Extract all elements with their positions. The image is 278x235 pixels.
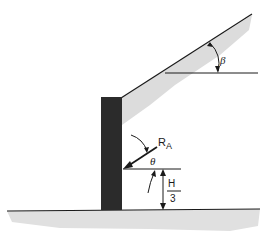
resultant-label: RA bbox=[158, 136, 172, 151]
theta-label: θ bbox=[150, 155, 156, 167]
backfill-shading bbox=[121, 15, 252, 125]
retaining-wall bbox=[101, 97, 122, 210]
beta-arrowhead-icon bbox=[215, 66, 220, 73]
retaining-wall-diagram: β RA θ H 3 bbox=[0, 0, 278, 235]
backfill-slope-line bbox=[121, 14, 252, 98]
theta-angle-arc bbox=[148, 173, 154, 193]
theta-arrowhead-icon bbox=[151, 170, 156, 177]
height-dimension-arrow-bottom-icon bbox=[160, 203, 166, 210]
ground-shading bbox=[7, 209, 260, 231]
height-numerator: H bbox=[168, 178, 175, 189]
height-denominator: 3 bbox=[170, 193, 176, 204]
beta-label: β bbox=[219, 54, 226, 66]
resultant-arrowhead-icon bbox=[123, 161, 133, 169]
height-dimension-arrow-top-icon bbox=[160, 169, 166, 176]
